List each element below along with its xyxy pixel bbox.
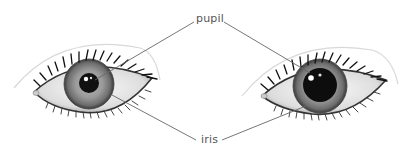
pupil-leader-left	[95, 22, 194, 80]
left-eye	[14, 44, 160, 118]
iris-leader-left	[112, 95, 196, 140]
pupil-leader-right	[224, 22, 310, 73]
right-eye	[242, 47, 398, 120]
right-pupil	[303, 68, 337, 102]
iris-leader-right	[222, 106, 306, 140]
iris-label: iris	[201, 133, 218, 146]
eye-diagram: pupil iris	[0, 0, 412, 152]
left-pupil	[79, 73, 99, 93]
pupil-label: pupil	[196, 12, 224, 25]
